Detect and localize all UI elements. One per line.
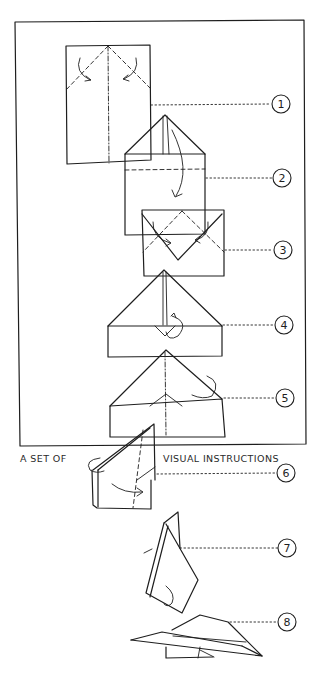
step-4-figure [108,270,222,357]
svg-text:1: 1 [278,98,285,111]
svg-text:4: 4 [281,319,288,332]
svg-text:2: 2 [279,172,286,185]
leader-line-6 [157,473,276,474]
step-number-6: 6 [277,464,295,482]
caption-left: A SET OF [20,453,67,464]
leader-line-1 [151,104,270,105]
step-number-7: 7 [278,539,296,557]
svg-text:7: 7 [284,542,291,555]
instruction-diagram: A SET OF VISUAL INSTRUCTIONS 1 2 3 4 [0,0,327,681]
svg-text:8: 8 [284,616,291,629]
step-number-1: 1 [272,95,290,113]
step-1-figure [66,45,151,164]
svg-text:3: 3 [280,244,287,257]
step-number-3: 3 [274,241,292,259]
step-number-8: 8 [278,613,296,631]
step-number-4: 4 [275,316,293,334]
step-number-2: 2 [273,169,291,187]
step-8-figure [131,615,262,658]
step-7-figure [144,512,198,613]
step-2-figure [125,115,205,235]
step-3-figure [142,210,224,276]
caption-right: VISUAL INSTRUCTIONS [163,453,279,464]
step-number-5: 5 [276,389,294,407]
svg-text:6: 6 [283,467,290,480]
svg-text:5: 5 [282,392,289,405]
step-5-figure [110,350,225,437]
